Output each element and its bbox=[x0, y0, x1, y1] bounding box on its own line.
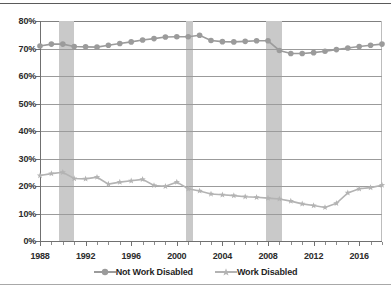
y-tick-label: 80% bbox=[2, 16, 36, 26]
x-tick-mark-minor bbox=[371, 242, 372, 245]
x-tick-mark-minor bbox=[302, 242, 303, 245]
x-tick-mark-minor bbox=[325, 242, 326, 245]
data-point-star bbox=[162, 183, 168, 189]
y-tick-mark bbox=[36, 131, 40, 132]
y-tick-mark bbox=[36, 159, 40, 160]
data-point-circle bbox=[277, 48, 283, 54]
data-point-star bbox=[299, 201, 305, 207]
x-tick-mark-minor bbox=[245, 242, 246, 245]
data-point-circle bbox=[242, 39, 248, 45]
data-point-circle bbox=[140, 37, 146, 43]
x-tick-mark-minor bbox=[291, 242, 292, 245]
x-tick-mark-minor bbox=[74, 242, 75, 245]
data-point-circle bbox=[311, 50, 317, 56]
data-point-circle bbox=[356, 44, 362, 50]
data-point-star bbox=[265, 195, 271, 201]
x-tick-mark-major bbox=[222, 242, 223, 246]
x-tick-mark-minor bbox=[211, 242, 212, 245]
data-point-star bbox=[242, 193, 248, 199]
data-point-star bbox=[151, 182, 157, 188]
y-tick-mark bbox=[36, 104, 40, 105]
data-point-star bbox=[310, 202, 316, 208]
data-point-star bbox=[208, 191, 214, 197]
x-tick-mark-minor bbox=[120, 242, 121, 245]
y-tick-label: 20% bbox=[2, 181, 36, 191]
chart-legend: Not Work Disabled Work Disabled bbox=[0, 265, 391, 279]
data-point-star bbox=[48, 170, 54, 176]
y-tick-mark bbox=[36, 186, 40, 187]
data-point-circle bbox=[94, 44, 100, 50]
y-tick-label: 40% bbox=[2, 126, 36, 136]
data-point-circle bbox=[254, 38, 260, 44]
data-point-star bbox=[82, 176, 88, 182]
y-tick-label: 50% bbox=[2, 99, 36, 109]
data-point-circle bbox=[37, 43, 43, 49]
data-point-star bbox=[219, 192, 225, 198]
y-tick-mark bbox=[36, 214, 40, 215]
x-tick-label: 2000 bbox=[157, 251, 197, 262]
data-point-circle bbox=[60, 41, 66, 47]
data-point-circle bbox=[220, 39, 226, 45]
y-tick-mark bbox=[36, 21, 40, 22]
x-tick-mark-major bbox=[131, 242, 132, 246]
x-tick-mark-minor bbox=[97, 242, 98, 245]
legend-item-work-disabled[interactable]: Work Disabled bbox=[215, 267, 297, 277]
x-tick-label: 1992 bbox=[66, 251, 106, 262]
plot-area bbox=[40, 21, 382, 241]
y-tick-label: 70% bbox=[2, 44, 36, 54]
x-tick-mark-minor bbox=[63, 242, 64, 245]
legend-marker-circle-icon bbox=[94, 267, 116, 277]
data-point-star bbox=[231, 192, 237, 198]
data-point-circle bbox=[299, 51, 305, 57]
legend-marker-star-icon bbox=[215, 267, 237, 277]
series-work-disabled bbox=[37, 169, 385, 210]
x-tick-mark-major bbox=[359, 242, 360, 246]
data-point-circle bbox=[197, 33, 203, 39]
x-tick-mark-major bbox=[314, 242, 315, 246]
series-layer bbox=[40, 21, 382, 242]
x-tick-mark-minor bbox=[279, 242, 280, 245]
y-tick-mark bbox=[36, 76, 40, 77]
top-divider bbox=[0, 3, 391, 4]
data-point-star bbox=[128, 177, 134, 183]
data-point-circle bbox=[322, 48, 328, 54]
data-point-circle bbox=[128, 39, 134, 45]
bottom-divider bbox=[0, 284, 391, 285]
x-tick-mark-minor bbox=[188, 242, 189, 245]
x-tick-label: 2016 bbox=[339, 251, 379, 262]
data-point-star bbox=[367, 184, 373, 190]
y-tick-label: 30% bbox=[2, 154, 36, 164]
chart-page: 0%10%20%30%40%50%60%70%80% 1988199219962… bbox=[0, 0, 391, 287]
data-point-circle bbox=[106, 42, 112, 48]
data-point-star bbox=[356, 185, 362, 191]
legend-item-not-work-disabled[interactable]: Not Work Disabled bbox=[94, 267, 193, 277]
data-point-circle bbox=[288, 51, 294, 57]
data-point-circle bbox=[49, 41, 55, 47]
legend-label-not-work-disabled: Not Work Disabled bbox=[116, 267, 193, 277]
x-tick-mark-minor bbox=[108, 242, 109, 245]
x-tick-label: 1988 bbox=[20, 251, 60, 262]
x-tick-mark-major bbox=[40, 242, 41, 246]
x-tick-mark-major bbox=[86, 242, 87, 246]
y-tick-mark bbox=[36, 49, 40, 50]
data-point-circle bbox=[334, 47, 340, 53]
x-tick-mark-minor bbox=[234, 242, 235, 245]
data-point-circle bbox=[71, 44, 77, 50]
x-tick-mark-minor bbox=[257, 242, 258, 245]
legend-label-work-disabled: Work Disabled bbox=[237, 267, 297, 277]
data-point-star bbox=[71, 175, 77, 181]
x-tick-mark-major bbox=[268, 242, 269, 246]
series-not-work-disabled bbox=[37, 33, 385, 57]
data-point-circle bbox=[185, 34, 191, 40]
x-tick-label: 1996 bbox=[111, 251, 151, 262]
data-point-circle bbox=[174, 34, 180, 40]
series-line bbox=[40, 172, 382, 207]
data-point-circle bbox=[117, 41, 123, 47]
y-tick-mark bbox=[36, 241, 40, 242]
x-tick-mark-minor bbox=[143, 242, 144, 245]
data-point-star bbox=[117, 179, 123, 185]
data-point-circle bbox=[265, 38, 271, 44]
x-tick-mark-minor bbox=[336, 242, 337, 245]
data-point-star bbox=[253, 194, 259, 200]
data-point-circle bbox=[163, 34, 169, 40]
